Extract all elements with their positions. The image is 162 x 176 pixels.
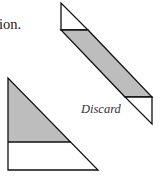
strip-top-triangle <box>61 3 88 30</box>
strip-gray-parallelogram <box>61 30 152 97</box>
dissection-diagram <box>0 0 162 176</box>
strip-bottom-triangle-discard <box>125 97 152 124</box>
discard-label: Discard <box>81 103 121 116</box>
right-triangle <box>8 78 98 170</box>
